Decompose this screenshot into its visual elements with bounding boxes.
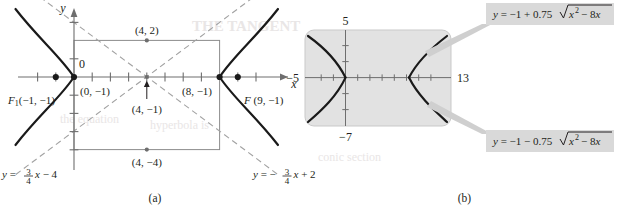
svg-text:y =: y =: [1, 168, 16, 180]
callout-upper-exponent: 2: [575, 6, 579, 15]
screen-xmin-label: −5: [286, 71, 299, 85]
screen-xmax-label: 13: [457, 71, 469, 85]
focus-right-label: F (9, −1): [243, 94, 284, 107]
panel-b-caption: (b): [310, 192, 619, 204]
svg-text:x: x: [568, 135, 574, 147]
origin-label: 0: [79, 57, 85, 71]
center-point-label: (4, −1): [132, 103, 162, 116]
vertex-right-label: (8, −1): [182, 85, 212, 98]
asymptote-negative-slope-label: y = − 3 4 x + 2: [252, 167, 316, 186]
svg-text:− 8x: − 8x: [581, 8, 600, 20]
panel-b-calculator-screen: 5 −5 13 −7 y = −1 + 0.75 x 2 − 8x: [310, 0, 619, 214]
vertex-right-dot: [217, 74, 223, 80]
panel-a-svg: y x 0 F1(−1, −1) (0, −1) (4, 2) (4, −1) …: [0, 0, 310, 190]
figure-root: THE TANGENT HAPTER 9 the equation and fi…: [0, 0, 619, 214]
focus-left-label: F1(−1, −1): [7, 94, 55, 108]
callout-lower-branch: y = −1 − 0.75 x 2 − 8x: [486, 130, 614, 152]
vertex-left-label: (0, −1): [80, 85, 110, 98]
panel-a-caption: (a): [0, 192, 310, 204]
asymptote-positive-slope-label: y = 3 4 x − 4: [1, 167, 58, 186]
y-axis-label: y: [59, 1, 66, 15]
callout-lower-exponent: 2: [575, 133, 579, 142]
svg-text:− 8x: − 8x: [581, 135, 600, 147]
svg-text:x: x: [568, 8, 574, 20]
center-point-dot: [145, 75, 149, 79]
focus-left-dot: [53, 74, 59, 80]
svg-text:y = −: y = −: [252, 168, 276, 180]
asymptote-2-denominator: 4: [285, 176, 290, 186]
svg-text:y = −1 + 0.75: y = −1 + 0.75: [492, 8, 553, 20]
bottom-point-label: (4, −4): [132, 156, 162, 169]
vertex-left-dot: [71, 74, 77, 80]
svg-text:y = −1 − 0.75: y = −1 − 0.75: [492, 135, 553, 147]
focus-right-dot: [235, 74, 241, 80]
screen-ymin-label: −7: [339, 130, 352, 144]
asymptote-1-denominator: 4: [26, 176, 31, 186]
y-axis: [70, 8, 79, 170]
asymptote-1-rest: x − 4: [34, 168, 58, 180]
center-callout-arrow: [144, 81, 150, 100]
bottom-point-dot: [145, 148, 149, 152]
callout-upper-branch: y = −1 + 0.75 x 2 − 8x: [486, 3, 614, 25]
panel-b-svg: 5 −5 13 −7 y = −1 + 0.75 x 2 − 8x: [310, 0, 619, 190]
panel-a-hyperbola-graph: y x 0 F1(−1, −1) (0, −1) (4, 2) (4, −1) …: [0, 0, 310, 214]
top-point-dot: [145, 38, 149, 42]
top-point-label: (4, 2): [135, 24, 159, 37]
screen-ymax-label: 5: [343, 14, 349, 28]
